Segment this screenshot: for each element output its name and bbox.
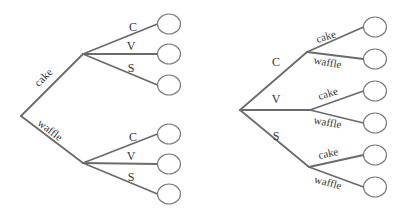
outcome-label-waffle: waffle xyxy=(313,173,343,192)
outcome-label-c: C xyxy=(129,130,137,144)
tree-labels: cakeCVSwaffleCVSCcakewaffleVcakewaffleSc… xyxy=(32,20,343,192)
tree-diagrams: cakeCVSwaffleCVSCcakewaffleVcakewaffleSc… xyxy=(0,0,407,216)
outcome-label-c: C xyxy=(129,20,137,34)
outcome-circle[interactable] xyxy=(158,184,181,204)
branch-label-s: S xyxy=(273,129,280,143)
leaf-edge-c xyxy=(83,24,158,54)
outcome-label-s: S xyxy=(128,170,135,184)
outcome-circle[interactable] xyxy=(158,44,181,64)
leaf-edge-s xyxy=(83,54,158,85)
outcome-label-cake: cake xyxy=(316,84,339,102)
outcome-circle[interactable] xyxy=(158,154,181,174)
branch-label-c: C xyxy=(272,55,280,69)
branch-edge-cake xyxy=(21,54,83,116)
leaf-edge-s xyxy=(83,163,158,194)
leaf-edge-v xyxy=(83,163,158,164)
outcome-label-v: V xyxy=(127,39,136,53)
tree-leaves xyxy=(158,14,387,204)
branch-label-v: V xyxy=(272,92,281,106)
outcome-label-cake: cake xyxy=(314,27,337,45)
outcome-circle[interactable] xyxy=(364,113,387,133)
outcome-circle[interactable] xyxy=(158,124,181,144)
leaf-edge-c xyxy=(83,134,158,163)
outcome-circle[interactable] xyxy=(158,75,181,95)
outcome-label-cake: cake xyxy=(317,145,339,161)
outcome-circle[interactable] xyxy=(364,145,387,165)
outcome-label-s: S xyxy=(128,61,135,75)
outcome-label-v: V xyxy=(127,149,136,163)
outcome-circle[interactable] xyxy=(364,17,387,37)
tree-edges xyxy=(21,24,364,194)
outcome-circle[interactable] xyxy=(364,49,387,69)
outcome-circle[interactable] xyxy=(158,14,181,34)
outcome-circle[interactable] xyxy=(364,177,387,197)
outcome-circle[interactable] xyxy=(364,81,387,101)
